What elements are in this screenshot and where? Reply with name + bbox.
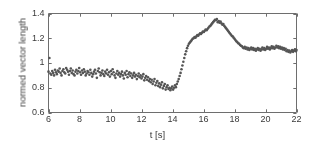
figure-container: t [s] normed vector length <box>0 0 315 146</box>
x-axis-label: t [s] <box>0 129 315 140</box>
scatter-plot-canvas <box>0 0 315 146</box>
y-axis-label: normed vector length <box>17 0 28 133</box>
